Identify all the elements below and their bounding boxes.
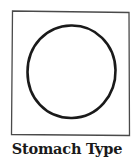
round-body-shape-icon	[28, 25, 116, 118]
figure-caption: Stomach Type	[0, 140, 134, 158]
figure-illustration	[0, 0, 134, 162]
stomach-type-figure: Stomach Type	[0, 0, 134, 162]
